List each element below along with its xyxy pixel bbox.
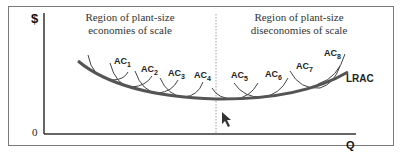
cursor-arrow-icon bbox=[222, 112, 231, 127]
ac7-label: AC7 bbox=[296, 61, 313, 73]
y-axis-label: $ bbox=[31, 11, 39, 26]
ac2-label: AC2 bbox=[141, 64, 158, 76]
ac4-label: AC4 bbox=[194, 70, 211, 82]
ac3-label: AC3 bbox=[168, 68, 185, 80]
region-diseconomies-line2: diseconomies of scale bbox=[251, 24, 348, 36]
x-axis-label: Q bbox=[346, 139, 355, 151]
ac8-label: AC8 bbox=[324, 48, 341, 60]
origin-label: 0 bbox=[32, 126, 38, 138]
region-economies-line2: economies of scale bbox=[88, 24, 172, 36]
lrac-label: LRAC bbox=[346, 73, 374, 84]
ac5-label: AC5 bbox=[231, 70, 248, 82]
region-diseconomies-line1: Region of plant-size bbox=[254, 11, 343, 23]
ac6-label: AC6 bbox=[265, 69, 282, 81]
region-economies-line1: Region of plant-size bbox=[85, 11, 174, 23]
ac1-label: AC1 bbox=[114, 56, 131, 68]
lrac-diagram: $ 0 Q Region of plant-size economies of … bbox=[0, 0, 402, 161]
